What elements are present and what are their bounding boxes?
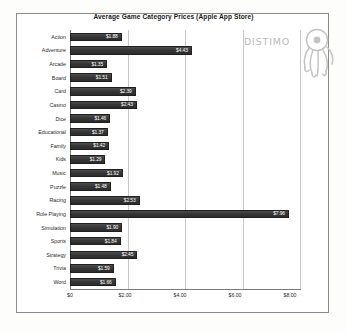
category-label: Music <box>52 170 66 176</box>
bar-value-label: $4.43 <box>176 48 191 53</box>
bar: $1.66 <box>70 278 116 286</box>
bar: $2.39 <box>70 87 136 95</box>
category-label: Arcade <box>49 61 66 67</box>
category-label: Role Playing <box>36 211 66 217</box>
category-label: Puzzle <box>50 184 66 190</box>
category-label: Strategy <box>46 252 66 258</box>
bar-row: Role Playing$7.96 <box>70 207 301 221</box>
bar: $1.51 <box>70 73 112 81</box>
bar: $1.92 <box>70 169 123 177</box>
bar-row: Card$2.39 <box>70 85 301 99</box>
bar-row: Adventure$4.43 <box>70 44 301 58</box>
bar-value-label: $2.53 <box>124 198 139 203</box>
bar-value-label: $1.35 <box>91 62 106 67</box>
bar: $1.59 <box>70 264 114 272</box>
x-tick-label: $2.00 <box>119 292 132 298</box>
bar-row: Family$1.42 <box>70 139 301 153</box>
x-tick-label: $8.00 <box>284 292 297 298</box>
bar: $1.37 <box>70 128 108 136</box>
category-label: Kids <box>56 156 66 162</box>
bar-value-label: $1.92 <box>107 171 122 176</box>
bar-value-label: $1.46 <box>94 116 109 121</box>
category-label: Dice <box>55 116 66 122</box>
bar: $2.45 <box>70 251 137 259</box>
bar: $1.84 <box>70 237 121 245</box>
bar-row: Puzzle$1.48 <box>70 180 301 194</box>
bar-row: Strategy$2.45 <box>70 248 301 262</box>
bar-row: Action$1.88 <box>70 30 301 44</box>
bar-row: Racing$2.53 <box>70 194 301 208</box>
bar-row: Word$1.66 <box>70 275 301 289</box>
x-axis-line <box>70 289 301 290</box>
bar-row: Casino$2.43 <box>70 98 301 112</box>
category-label: Card <box>55 88 66 94</box>
category-label: Word <box>53 279 66 285</box>
bar: $1.29 <box>70 155 105 163</box>
category-label: Racing <box>50 197 67 203</box>
chart-title: Average Game Category Prices (Apple App … <box>0 13 347 20</box>
x-tick-label: $0 <box>67 292 73 298</box>
bar: $1.48 <box>70 182 111 190</box>
bar-row: Arcade$1.35 <box>70 57 301 71</box>
bar-value-label: $7.96 <box>273 211 288 216</box>
category-label: Trivia <box>53 265 66 271</box>
bar-value-label: $1.88 <box>106 34 121 39</box>
chart-canvas: Average Game Category Prices (Apple App … <box>0 0 347 333</box>
category-label: Adventure <box>42 47 66 53</box>
bar-value-label: $1.37 <box>92 130 107 135</box>
category-label: Sports <box>51 238 66 244</box>
x-axis: $0$2.00$4.00$6.00$8.00 <box>70 289 301 303</box>
bar-value-label: $1.84 <box>105 239 120 244</box>
category-label: Educational <box>38 129 66 135</box>
bar: $1.35 <box>70 60 107 68</box>
bar: $4.43 <box>70 46 192 54</box>
bar-value-label: $1.66 <box>100 280 115 285</box>
plot-area: Action$1.88Adventure$4.43Arcade$1.35Boar… <box>70 30 301 289</box>
bar-value-label: $1.29 <box>90 157 105 162</box>
bar-value-label: $1.59 <box>98 266 113 271</box>
bar-value-label: $2.39 <box>120 89 135 94</box>
bar-row: Trivia$1.59 <box>70 262 301 276</box>
bar-value-label: $2.45 <box>122 252 137 257</box>
bar-value-label: $1.48 <box>95 184 110 189</box>
bar: $2.43 <box>70 101 137 109</box>
x-tick-label: $4.00 <box>174 292 187 298</box>
bar: $1.46 <box>70 114 110 122</box>
category-label: Action <box>51 34 66 40</box>
bar: $1.88 <box>70 33 122 41</box>
bar-row: Sports$1.84 <box>70 234 301 248</box>
bar-row: Simulation$1.90 <box>70 221 301 235</box>
bar-row: Kids$1.29 <box>70 153 301 167</box>
category-label: Board <box>52 75 66 81</box>
bar: $1.90 <box>70 223 122 231</box>
bar-row: Dice$1.46 <box>70 112 301 126</box>
bar: $1.42 <box>70 142 109 150</box>
bar-value-label: $1.42 <box>93 143 108 148</box>
bar: $2.53 <box>70 196 140 204</box>
bar-value-label: $1.51 <box>96 75 111 80</box>
bar-value-label: $1.90 <box>107 225 122 230</box>
bar-row: Music$1.92 <box>70 166 301 180</box>
category-label: Simulation <box>41 225 66 231</box>
bar-value-label: $2.43 <box>121 102 136 107</box>
category-label: Casino <box>50 102 67 108</box>
category-label: Family <box>50 143 66 149</box>
bar-row: Educational$1.37 <box>70 125 301 139</box>
bar-rows: Action$1.88Adventure$4.43Arcade$1.35Boar… <box>70 30 301 289</box>
x-tick-label: $6.00 <box>229 292 242 298</box>
bar-row: Board$1.51 <box>70 71 301 85</box>
bar: $7.96 <box>70 210 289 218</box>
